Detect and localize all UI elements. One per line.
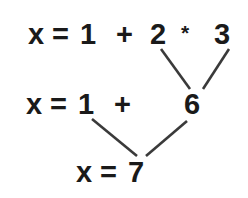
row-final-result-operand-seven: 7 [128, 158, 144, 187]
expression-evaluation-diagram: x=1+2*3x=1+6x=7 [0, 0, 248, 198]
row-final-result: x=7 [0, 0, 248, 198]
row-final-result-equals-sign: = [100, 158, 117, 187]
row-final-result-variable-x: x [76, 158, 92, 187]
